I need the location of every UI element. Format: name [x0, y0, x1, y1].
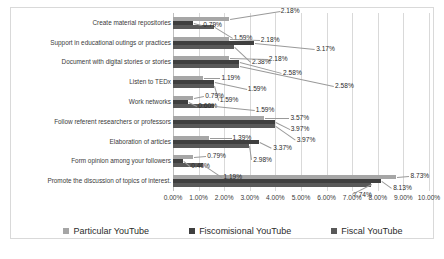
x-axis-tick: 3.00% — [240, 194, 259, 201]
label-leader-line — [265, 118, 289, 119]
plot-area: 2.18%0.79%1.59%2.18%3.17%2.38%2.18%2.58%… — [173, 13, 429, 191]
category-label: Work networks — [129, 98, 171, 106]
legend-item[interactable]: Fiscal YouTube — [331, 226, 402, 236]
data-label: 0.79% — [207, 152, 226, 160]
bar — [173, 183, 371, 187]
data-label: 3.97% — [297, 136, 316, 144]
label-leader-line — [260, 142, 272, 149]
chart-legend: Particular YouTubeFiscomisional YouTubeF… — [21, 221, 444, 241]
gridline — [403, 13, 404, 191]
data-label: 2.18% — [281, 7, 300, 15]
bar — [173, 45, 234, 49]
category-label: Form opinion among your followers — [71, 157, 171, 165]
data-label: 2.98% — [253, 156, 272, 164]
bar — [173, 124, 275, 128]
x-axis-tick: 1.00% — [189, 194, 208, 201]
x-axis-tick: 6.00% — [317, 194, 336, 201]
data-label: 1.59% — [248, 85, 267, 93]
x-axis-tick: 10.00% — [418, 194, 440, 201]
label-leader-line — [382, 181, 393, 189]
chart-container: Create material repositoriesSupport in e… — [10, 7, 434, 239]
data-label: 0.79% — [203, 21, 222, 29]
data-label: 2.18% — [269, 55, 288, 63]
legend-label: Fiscal YouTube — [341, 226, 402, 236]
data-label: 1.19% — [221, 74, 240, 82]
data-label: 8.13% — [393, 184, 412, 192]
x-axis-tick: 5.00% — [292, 194, 311, 201]
x-axis-tick: 0.00% — [164, 194, 183, 201]
data-label: 3.97% — [291, 125, 310, 133]
legend-swatch-icon — [189, 228, 195, 234]
label-leader-line — [230, 11, 280, 20]
label-leader-line — [255, 43, 315, 50]
category-label: Follow referent researchers or professor… — [54, 118, 171, 126]
gridline — [429, 13, 430, 191]
label-leader-line — [210, 138, 232, 139]
label-leader-line — [215, 106, 255, 111]
category-label: Listen to TEDx — [129, 78, 171, 86]
data-label: 3.17% — [316, 45, 335, 53]
x-axis-tick-labels: 0.00%1.00%2.00%3.00%4.00%5.00%6.00%7.00%… — [173, 194, 429, 206]
legend-item[interactable]: Fiscomisional YouTube — [189, 226, 291, 236]
x-axis-tick: 7.00% — [343, 194, 362, 201]
gridline — [327, 13, 328, 191]
x-axis-tick: 2.00% — [215, 194, 234, 201]
data-label: 3.57% — [290, 114, 309, 122]
x-axis-tick: 9.00% — [394, 194, 413, 201]
data-label: 2.18% — [261, 36, 280, 44]
category-label: Elaboration of articles — [110, 138, 171, 146]
x-axis-tick: 4.00% — [266, 194, 285, 201]
category-label: Support in educational outings or practi… — [50, 39, 171, 47]
bar — [173, 64, 239, 68]
bar — [173, 144, 249, 148]
data-label: 8.73% — [410, 172, 429, 180]
legend-item[interactable]: Particular YouTube — [63, 226, 149, 236]
bar — [173, 84, 214, 88]
label-leader-line — [214, 82, 246, 90]
gridline — [301, 13, 302, 191]
category-label: Document with digital stories or stories — [62, 58, 171, 66]
gridline — [352, 13, 353, 191]
category-label: Create material repositories — [93, 19, 172, 27]
legend-label: Fiscomisional YouTube — [199, 226, 291, 236]
category-label: Promote the discussion of topics of inte… — [47, 177, 171, 185]
label-leader-line — [194, 156, 206, 158]
legend-swatch-icon — [331, 228, 337, 234]
data-label: 1.39% — [233, 134, 252, 142]
data-label: 1.19% — [223, 173, 242, 181]
category-axis-labels: Create material repositoriesSupport in e… — [25, 13, 171, 191]
data-label: 1.59% — [256, 106, 275, 114]
label-leader-line — [204, 78, 220, 79]
legend-label: Particular YouTube — [73, 226, 149, 236]
data-label: 2.58% — [335, 82, 354, 90]
legend-swatch-icon — [63, 228, 69, 234]
x-axis-tick: 8.00% — [368, 194, 387, 201]
gridline — [378, 13, 379, 191]
data-label: 0.79% — [205, 92, 224, 100]
data-label: 3.37% — [273, 144, 292, 152]
